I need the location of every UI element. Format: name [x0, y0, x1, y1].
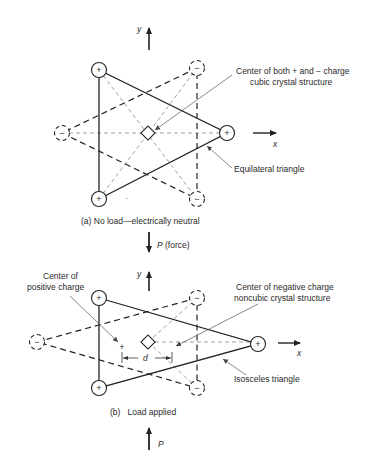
negative-ion: −: [190, 381, 205, 396]
svg-text:-: -: [126, 195, 128, 201]
annotation-center-a: Center of both + and − charge cubic crys…: [155, 66, 350, 130]
y-axis-arrow-a: y: [136, 24, 149, 50]
panel-b: y x + d: [27, 269, 334, 417]
svg-text:−: −: [194, 293, 199, 303]
svg-text:Center of both + and − charge: Center of both + and − charge: [236, 66, 350, 76]
x-axis-label-b: x: [296, 348, 302, 358]
svg-text:−: −: [34, 337, 39, 347]
panel-a: y x + + +: [55, 24, 350, 226]
piezoelectric-diagram: y x + + +: [0, 0, 372, 464]
svg-text:−: −: [59, 128, 64, 138]
dimension-d-label: d: [143, 353, 148, 363]
svg-text:Center of negative charge: Center of negative charge: [236, 282, 334, 292]
center-positive-marker: +: [119, 342, 124, 352]
svg-text:+: +: [96, 65, 101, 75]
y-axis-arrow-b: y: [136, 269, 149, 291]
negative-triangle-a: [62, 68, 197, 199]
svg-text:noncubic crystal structure: noncubic crystal structure: [234, 293, 331, 303]
y-axis-label-a: y: [136, 24, 142, 34]
y-axis-label-b: y: [136, 269, 142, 279]
svg-text:+: +: [96, 194, 101, 204]
svg-text:−: −: [194, 63, 199, 73]
force-arrow-top: P (force): [149, 232, 190, 252]
positive-ion: +: [220, 126, 235, 141]
x-axis-arrow-b: x: [278, 343, 302, 358]
svg-text:+: +: [255, 339, 260, 349]
x-axis-label-a: x: [272, 139, 278, 149]
svg-text:Center of: Center of: [43, 271, 79, 281]
center-negative-diamond: [141, 335, 155, 349]
svg-text:+: +: [224, 128, 229, 138]
svg-text:−: −: [194, 194, 199, 204]
svg-text:cubic crystal structure: cubic crystal structure: [250, 77, 332, 87]
positive-ion: +: [251, 337, 266, 352]
caption-b: (b) Load applied: [110, 407, 176, 417]
negative-ion: −: [30, 335, 45, 350]
force-symbol-top: P: [157, 240, 163, 250]
force-arrow-bottom: P: [149, 428, 164, 450]
positive-ion: +: [92, 291, 107, 306]
caption-a: (a) No load—electrically neutral: [81, 216, 200, 226]
negative-ion: −: [190, 61, 205, 76]
negative-ion: −: [55, 126, 70, 141]
svg-text:positive charge: positive charge: [27, 282, 84, 292]
svg-text:−: −: [194, 383, 199, 393]
annotation-isosceles-b: Isosceles triangle: [223, 359, 300, 384]
force-label-bottom: P: [158, 439, 164, 449]
positive-ion: +: [92, 63, 107, 78]
positive-ion: +: [92, 381, 107, 396]
svg-text:Equilateral triangle: Equilateral triangle: [234, 164, 305, 174]
x-axis-arrow-a: x: [253, 133, 278, 149]
svg-text:Isosceles triangle: Isosceles triangle: [234, 374, 300, 384]
force-suffix-top: (force): [165, 240, 190, 250]
equilateral-triangle-a: [99, 70, 227, 199]
negative-ion: −: [190, 192, 205, 207]
svg-text:+: +: [96, 293, 101, 303]
annotation-equilateral-a: Equilateral triangle: [207, 146, 305, 174]
negative-triangle-b: [37, 298, 197, 388]
svg-text:+: +: [96, 383, 101, 393]
positive-ion: +: [92, 192, 107, 207]
negative-ion: −: [190, 291, 205, 306]
annotation-positive-center: Center of positive charge: [27, 271, 118, 342]
